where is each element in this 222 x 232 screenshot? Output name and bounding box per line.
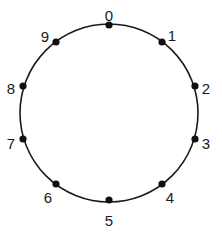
circle-outline [20,24,198,202]
point-marker-8 [19,82,26,89]
point-label-5: 5 [105,212,113,229]
point-marker-1 [158,38,165,45]
point-marker-3 [191,135,198,142]
circle-diagram: 0123456789 [0,0,222,232]
point-marker-5 [105,196,112,203]
point-marker-4 [158,180,165,187]
point-label-4: 4 [166,189,174,206]
point-label-2: 2 [202,80,210,97]
point-label-9: 9 [41,28,49,45]
point-label-6: 6 [44,189,52,206]
point-marker-6 [52,180,59,187]
point-label-1: 1 [168,27,176,44]
point-label-7: 7 [7,135,15,152]
point-label-3: 3 [202,135,210,152]
point-marker-7 [19,135,26,142]
point-label-0: 0 [105,7,113,24]
point-marker-9 [52,38,59,45]
point-label-8: 8 [7,80,15,97]
points-group: 0123456789 [7,7,210,229]
point-marker-2 [191,82,198,89]
